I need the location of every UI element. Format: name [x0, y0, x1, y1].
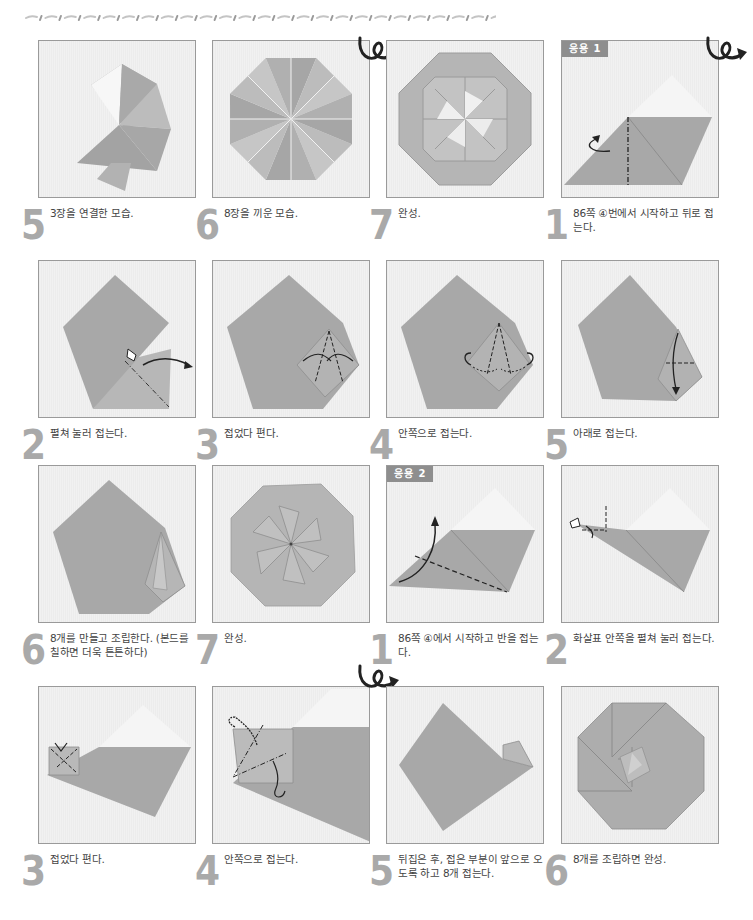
decorative-tick [409, 16, 411, 20]
step-number: 1 [544, 205, 562, 245]
decorative-tick [176, 16, 178, 20]
step-caption: 완성. [398, 206, 548, 220]
decorative-dash [278, 16, 289, 18]
decorative-dash [104, 16, 115, 18]
finished-spiral-octagon-figure [562, 687, 718, 843]
decorative-dash [142, 16, 153, 18]
step-illustration [38, 260, 196, 418]
decorative-dash-border [24, 13, 496, 21]
step-illustration [38, 40, 196, 198]
step-illustration [561, 465, 719, 623]
decorative-dash [375, 16, 386, 18]
step-number: 7 [195, 630, 213, 670]
variation2-step4-figure [213, 687, 369, 843]
decorative-dash [123, 16, 134, 18]
step-caption: 8장을 끼운 모습. [224, 206, 374, 220]
step-number: 4 [369, 425, 387, 465]
step-number: 2 [544, 630, 562, 670]
step-number: 5 [544, 425, 562, 465]
step-illustration [386, 40, 544, 198]
step-illustration: 응용 2 [386, 465, 544, 623]
step-illustration [386, 686, 544, 844]
decorative-tick [370, 16, 372, 20]
finished-star-octagon-figure [213, 466, 369, 622]
decorative-tick [156, 16, 158, 20]
step-caption: 8개를 만들고 조립한다. (본드를 칠하면 더욱 튼튼하다) [50, 631, 200, 659]
step-number: 5 [369, 851, 387, 891]
step-caption: 펼쳐 눌러 접는다. [50, 426, 200, 440]
decorative-tick [312, 16, 314, 20]
decorative-tick [253, 16, 255, 20]
decorative-dash [26, 16, 37, 18]
decorative-dash [414, 16, 425, 18]
variation2-step5-figure [387, 687, 543, 843]
decorative-dash [317, 16, 328, 18]
decorative-dash [298, 16, 309, 18]
step-illustration [212, 260, 370, 418]
decorative-tick [273, 16, 275, 20]
three-units-joined-figure [39, 41, 195, 197]
variation1-step1-figure [562, 41, 718, 197]
finished-octagon-pinwheel-figure [387, 41, 543, 197]
step-number: 3 [195, 425, 213, 465]
step-caption: 3장을 연결한 모습. [50, 206, 200, 220]
step-number: 6 [195, 205, 213, 245]
decorative-tick [79, 16, 81, 20]
decorative-dash [84, 16, 95, 18]
decorative-dash [453, 16, 464, 18]
eight-units-octagon-figure [213, 41, 369, 197]
variation2-step1-figure [387, 466, 543, 622]
step-number: 6 [21, 630, 39, 670]
step-caption: 접었다 편다. [224, 426, 374, 440]
fold-and-unfold-pentagon-figure [213, 261, 369, 417]
squash-fold-pentagon-figure [39, 261, 195, 417]
pentagon-unit-finished-figure [39, 466, 195, 622]
decorative-tick [350, 16, 352, 20]
decorative-dash [433, 16, 444, 18]
decorative-dash [356, 16, 367, 18]
decorative-tick [118, 16, 120, 20]
decorative-dash [220, 16, 231, 18]
decorative-dash [472, 16, 483, 18]
step-illustration [561, 686, 719, 844]
step-caption: 화살표 안쪽을 펼쳐 눌러 접는다. [573, 631, 723, 645]
decorative-tick [234, 16, 236, 20]
step-illustration [212, 40, 370, 198]
decorative-dash [336, 16, 347, 18]
fold-down-pentagon-figure [562, 261, 718, 417]
decorative-tick [137, 16, 139, 20]
decorative-tick [428, 16, 430, 20]
step-illustration [38, 465, 196, 623]
step-number: 4 [195, 851, 213, 891]
decorative-tick [59, 16, 61, 20]
step-number: 2 [21, 425, 39, 465]
decorative-dash [65, 16, 76, 18]
decorative-tick [486, 16, 488, 20]
decorative-dash [395, 16, 406, 18]
variation2-step2-figure [562, 466, 718, 622]
step-number: 5 [21, 205, 39, 245]
decorative-dash [259, 16, 270, 18]
step-illustration [386, 260, 544, 418]
variation-badge: 응용 1 [562, 41, 608, 57]
step-number: 6 [544, 851, 562, 891]
decorative-tick [467, 16, 469, 20]
decorative-dash [162, 16, 173, 18]
decorative-tick [195, 16, 197, 20]
decorative-tick [215, 16, 217, 20]
step-caption: 86쪽 ④에서 시작하고 반을 접는다. [398, 631, 548, 659]
step-illustration [38, 686, 196, 844]
step-number: 3 [21, 851, 39, 891]
step-caption: 안쪽으로 접는다. [224, 852, 374, 866]
step-number: 7 [369, 205, 387, 245]
step-caption: 뒤집은 후, 접은 부분이 앞으로 오도록 하고 8개 접는다. [398, 852, 548, 880]
decorative-tick [40, 16, 42, 20]
variation2-step3-figure [39, 687, 195, 843]
turn-over-icon [704, 34, 748, 68]
step-caption: 완성. [224, 631, 374, 645]
inside-fold-pentagon-figure [387, 261, 543, 417]
decorative-tick [292, 16, 294, 20]
step-caption: 안쪽으로 접는다. [398, 426, 548, 440]
decorative-dash [201, 16, 212, 18]
decorative-dash [492, 16, 496, 18]
